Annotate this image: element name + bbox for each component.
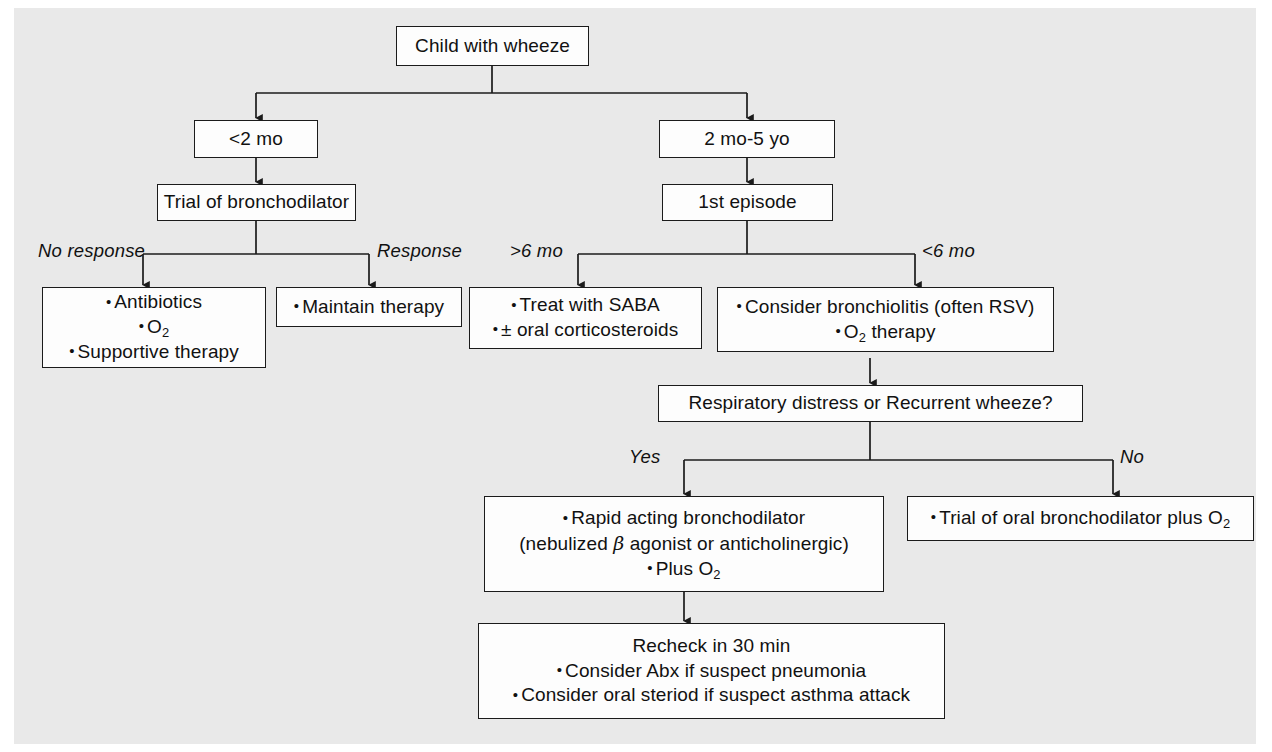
yes-line-2: (nebulized β agonist or anticholinergic) — [519, 531, 849, 557]
no-line-1: •Trial of oral bronchodilator plus O2 — [931, 506, 1230, 531]
over-6mo-line-1: •Treat with SABA — [511, 293, 660, 318]
under-6mo-line-1: •Consider bronchiolitis (often RSV) — [737, 295, 1035, 320]
response-line-1: •Maintain therapy — [294, 295, 444, 320]
bullet-icon: • — [647, 559, 655, 576]
edge-label-yes: Yes — [629, 446, 660, 468]
bullet-icon: • — [513, 686, 521, 703]
flowchart-nodes: Child with wheeze <2 mo 2 mo-5 yo Trial … — [14, 8, 1256, 744]
edge-label-no-response: No response — [38, 240, 145, 262]
node-under-6mo-actions: •Consider bronchiolitis (often RSV) •O2 … — [717, 287, 1054, 352]
node-age-2mo-5yo: 2 mo-5 yo — [659, 120, 835, 158]
node-recheck: Recheck in 30 min •Consider Abx if suspe… — [478, 623, 945, 719]
node-no-response-actions: •Antibiotics •O2 •Supportive therapy — [42, 287, 266, 368]
node-response-maintain: •Maintain therapy — [276, 287, 462, 327]
bullet-icon: • — [294, 297, 302, 314]
node-no-oral-bronchodilator: •Trial of oral bronchodilator plus O2 — [907, 496, 1254, 541]
node-age-2mo-5yo-text: 2 mo-5 yo — [704, 127, 789, 152]
no-response-line-2: •O2 — [139, 315, 170, 340]
node-trial-bronchodilator-text: Trial of bronchodilator — [164, 190, 349, 215]
under-6mo-line-2: •O2 therapy — [836, 320, 936, 345]
beta-symbol: β — [613, 532, 624, 554]
recheck-line-2: •Consider Abx if suspect pneumonia — [557, 659, 867, 684]
yes-line-1: •Rapid acting bronchodilator — [563, 506, 805, 531]
bullet-icon: • — [139, 317, 147, 334]
node-trial-bronchodilator: Trial of bronchodilator — [157, 184, 356, 221]
node-root-text: Child with wheeze — [415, 34, 570, 59]
edge-label-under-6mo: <6 mo — [922, 240, 975, 262]
bullet-icon: • — [106, 293, 114, 310]
bullet-icon: • — [511, 296, 519, 313]
recheck-line-1: Recheck in 30 min — [633, 634, 791, 659]
node-root: Child with wheeze — [396, 26, 589, 66]
flowchart-figure: Child with wheeze <2 mo 2 mo-5 yo Trial … — [14, 8, 1256, 744]
node-respiratory-distress-question: Respiratory distress or Recurrent wheeze… — [658, 385, 1083, 422]
edge-label-no: No — [1120, 446, 1144, 468]
node-over-6mo-actions: •Treat with SABA •± oral corticosteroids — [469, 287, 702, 349]
subscript-2: 2 — [1223, 516, 1230, 531]
subscript-2: 2 — [859, 330, 866, 345]
edge-label-response: Response — [377, 240, 462, 262]
bullet-icon: • — [69, 342, 77, 359]
node-yes-rapid-bronchodilator: •Rapid acting bronchodilator (nebulized … — [484, 496, 884, 592]
recheck-line-3: •Consider oral steriod if suspect asthma… — [513, 683, 910, 708]
node-age-under-2mo: <2 mo — [194, 120, 318, 158]
edge-label-over-6mo: >6 mo — [510, 240, 563, 262]
bullet-icon: • — [737, 297, 745, 314]
yes-line-3: •Plus O2 — [647, 557, 720, 582]
no-response-line-1: •Antibiotics — [106, 290, 202, 315]
bullet-icon: • — [931, 508, 939, 525]
node-age-under-2mo-text: <2 mo — [229, 127, 283, 152]
node-first-episode-text: 1st episode — [698, 190, 796, 215]
bullet-icon: • — [493, 320, 501, 337]
over-6mo-line-2: •± oral corticosteroids — [493, 318, 679, 343]
bullet-icon: • — [557, 661, 565, 678]
node-first-episode: 1st episode — [662, 184, 833, 221]
subscript-2: 2 — [713, 567, 720, 582]
no-response-line-3: •Supportive therapy — [69, 340, 239, 365]
subscript-2: 2 — [162, 325, 169, 340]
bullet-icon: • — [836, 322, 844, 339]
respiratory-distress-text: Respiratory distress or Recurrent wheeze… — [688, 391, 1052, 416]
bullet-icon: • — [563, 509, 571, 526]
